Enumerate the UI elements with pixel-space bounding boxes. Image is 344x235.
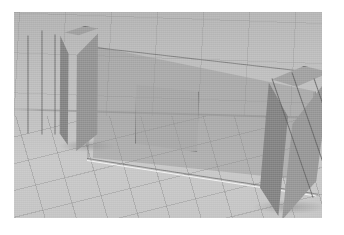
image-frame	[0, 0, 344, 235]
render-grain-overlay	[14, 12, 322, 218]
viewport-3d[interactable]	[14, 12, 322, 218]
